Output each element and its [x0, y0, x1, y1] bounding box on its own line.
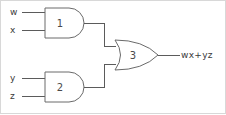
- and-gate-1-number: 1: [57, 18, 63, 29]
- circuit-canvas: w x y z 1 2 3 wx+yz: [0, 0, 226, 115]
- logic-circuit-diagram: w x y z 1 2 3 wx+yz: [0, 0, 226, 115]
- or-gate-3-body: [115, 40, 158, 70]
- output-expression-label: wx+yz: [181, 50, 213, 60]
- wire-gate2-to-gate3: [84, 64, 116, 87]
- or-gate-3-number: 3: [130, 50, 136, 61]
- input-label-w: w: [10, 7, 17, 17]
- input-label-y: y: [10, 73, 16, 83]
- and-gate-1-body: [45, 8, 84, 38]
- input-label-z: z: [10, 91, 15, 101]
- wire-gate1-to-gate3: [84, 23, 116, 46]
- and-gate-2-body: [45, 72, 84, 102]
- and-gate-2-number: 2: [57, 82, 63, 93]
- input-label-x: x: [10, 25, 16, 35]
